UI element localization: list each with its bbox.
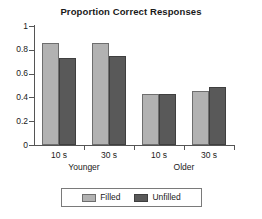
legend-label: Filled: [100, 193, 120, 202]
y-axis-tick: [29, 145, 34, 146]
y-axis-tick-label: 0: [0, 141, 28, 150]
plot-area: [34, 26, 234, 145]
chart-legend: FilledUnfilled: [61, 188, 202, 207]
x-axis-tick: [84, 146, 85, 150]
x-axis-group-label: Younger: [34, 163, 134, 172]
x-axis-tick: [134, 146, 135, 150]
legend-label: Unfilled: [152, 193, 180, 202]
bar-unfilled-3: [209, 87, 226, 145]
x-axis-group-label: Older: [134, 163, 234, 172]
bar-unfilled-2: [159, 94, 176, 145]
chart-figure: Proportion Correct Responses 10.80.60.40…: [0, 0, 262, 219]
bar-filled-1: [92, 43, 109, 145]
chart-title: Proportion Correct Responses: [0, 6, 262, 17]
y-axis-tick-label: 1: [0, 22, 28, 31]
x-axis-tick: [234, 146, 235, 150]
x-axis-category-label: 10 s: [134, 151, 184, 160]
y-axis-tick-label: 0.8: [0, 45, 28, 54]
legend-swatch-icon: [134, 194, 148, 202]
bar-unfilled-1: [109, 56, 126, 145]
legend-item-unfilled: Unfilled: [134, 193, 180, 202]
legend-item-filled: Filled: [82, 193, 120, 202]
legend-swatch-icon: [82, 194, 96, 202]
x-axis-category-label: 30 s: [184, 151, 234, 160]
y-axis-tick-labels: 10.80.60.40.20: [0, 0, 28, 219]
y-axis-tick-label: 0.6: [0, 69, 28, 78]
bar-filled-0: [42, 43, 59, 145]
bar-unfilled-0: [59, 58, 76, 145]
x-axis-category-label: 30 s: [84, 151, 134, 160]
y-axis-tick-label: 0.4: [0, 93, 28, 102]
x-axis-tick: [184, 146, 185, 150]
y-axis-tick-label: 0.2: [0, 117, 28, 126]
bar-filled-2: [142, 94, 159, 145]
bar-filled-3: [192, 91, 209, 145]
x-axis-category-label: 10 s: [34, 151, 84, 160]
